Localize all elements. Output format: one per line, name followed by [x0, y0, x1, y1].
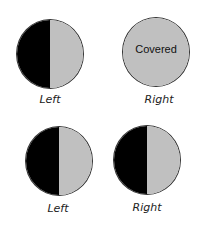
- covered-text: Covered: [123, 43, 189, 55]
- bottom-right-label: Right: [117, 201, 177, 214]
- top-left-label: Left: [20, 93, 80, 106]
- dark-half: [26, 127, 59, 195]
- bottom-right-circle: [113, 125, 181, 195]
- dark-half: [114, 126, 147, 194]
- light-half: [59, 127, 92, 195]
- light-half: [147, 126, 180, 194]
- dark-half: [17, 20, 50, 88]
- bottom-left-circle: [25, 126, 93, 196]
- light-half: [50, 20, 83, 88]
- top-right-circle: Covered: [122, 17, 190, 87]
- top-right-label: Right: [129, 93, 189, 106]
- top-left-circle: [16, 19, 84, 89]
- bottom-left-label: Left: [28, 202, 88, 215]
